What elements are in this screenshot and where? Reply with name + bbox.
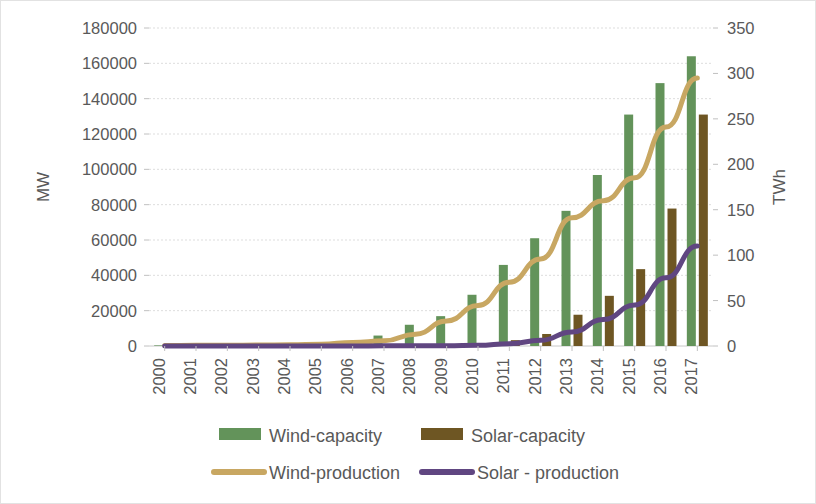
y-axis-left-tick-label: 80000 — [91, 196, 137, 214]
bar-series-solar-capacity — [448, 115, 708, 346]
x-axis-tick-label: 2008 — [400, 358, 418, 395]
y-axis-right-tick-label: 150 — [727, 201, 755, 219]
y-axis-right-tick-label: 100 — [727, 246, 755, 264]
y-axis-right: 050100150200250300350 — [713, 19, 755, 355]
x-axis-tick-label: 2007 — [369, 358, 387, 395]
y-axis-left: 0200004000060000800001000001200001400001… — [82, 19, 149, 355]
line-series-group — [165, 78, 698, 346]
bar — [636, 269, 645, 346]
legend-swatch-bar — [219, 428, 261, 440]
x-axis-tick-label: 2016 — [651, 358, 669, 395]
x-axis: 2000200120022003200420052006200720082009… — [150, 346, 701, 395]
y-axis-left-tick-label: 20000 — [91, 302, 137, 320]
bar — [624, 115, 633, 346]
bar — [499, 265, 508, 346]
y-axis-left-tick-label: 40000 — [91, 266, 137, 284]
chart-canvas: 0200004000060000800001000001200001400001… — [1, 1, 816, 504]
legend-item[interactable]: Wind-capacity — [219, 426, 382, 446]
bar — [530, 238, 539, 346]
x-axis-tick-label: 2003 — [244, 358, 262, 395]
legend-swatch-bar — [421, 428, 463, 440]
line-series-solar-production — [165, 246, 698, 346]
x-axis-tick-label: 2014 — [588, 358, 606, 395]
legend-label: Wind-production — [269, 463, 400, 483]
legend-label: Solar - production — [477, 463, 619, 483]
x-axis-tick-label: 2015 — [620, 358, 638, 395]
legend-swatch-line — [211, 469, 267, 475]
legend-swatch-line — [419, 469, 475, 475]
y-axis-left-title: MW — [34, 172, 53, 202]
chart-figure: 0200004000060000800001000001200001400001… — [0, 0, 816, 504]
x-axis-tick-label: 2001 — [181, 358, 199, 395]
x-axis-tick-label: 2000 — [150, 358, 168, 395]
y-axis-right-tick-label: 250 — [727, 110, 755, 128]
legend-label: Solar-capacity — [471, 426, 585, 446]
y-axis-left-tick-label: 60000 — [91, 231, 137, 249]
y-axis-right-tick-label: 50 — [727, 292, 745, 310]
y-axis-right-tick-label: 200 — [727, 155, 755, 173]
x-axis-tick-label: 2012 — [526, 358, 544, 395]
line-series-wind-production — [165, 78, 698, 345]
x-axis-tick-label: 2005 — [306, 358, 324, 395]
bar — [687, 56, 696, 346]
bar — [699, 115, 708, 346]
x-axis-tick-label: 2010 — [463, 358, 481, 395]
legend-item[interactable]: Solar - production — [419, 463, 619, 483]
legend-label: Wind-capacity — [269, 426, 382, 446]
bar — [656, 83, 665, 346]
x-axis-tick-label: 2017 — [682, 358, 700, 395]
y-axis-left-tick-label: 100000 — [82, 160, 137, 178]
legend-item[interactable]: Wind-production — [211, 463, 400, 483]
bar — [468, 295, 477, 346]
y-axis-left-tick-label: 160000 — [82, 54, 137, 72]
y-axis-left-tick-label: 0 — [128, 337, 137, 355]
x-axis-tick-label: 2006 — [338, 358, 356, 395]
bar — [562, 211, 571, 346]
y-axis-right-tick-label: 300 — [727, 64, 755, 82]
chart-legend: Wind-capacitySolar-capacityWind-producti… — [211, 426, 619, 483]
bar — [154, 345, 163, 346]
x-axis-tick-label: 2011 — [494, 358, 512, 393]
y-axis-right-title: TWh — [770, 169, 789, 205]
bar-series-wind-capacity — [154, 56, 696, 346]
y-axis-left-tick-label: 140000 — [82, 90, 137, 108]
y-axis-left-tick-label: 120000 — [82, 125, 137, 143]
y-axis-right-tick-label: 0 — [727, 337, 736, 355]
y-axis-right-tick-label: 350 — [727, 19, 755, 37]
x-axis-tick-label: 2009 — [432, 358, 450, 395]
legend-item[interactable]: Solar-capacity — [421, 426, 585, 446]
bar-series-group — [154, 56, 708, 346]
x-axis-tick-label: 2013 — [557, 358, 575, 395]
y-axis-left-tick-label: 180000 — [82, 19, 137, 37]
x-axis-tick-label: 2002 — [212, 358, 230, 395]
x-axis-tick-label: 2004 — [275, 358, 293, 395]
